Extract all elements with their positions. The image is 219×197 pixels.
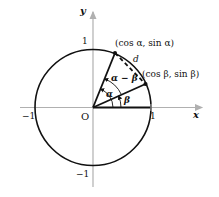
point-beta xyxy=(144,82,148,86)
origin-label: O xyxy=(81,112,89,122)
point-alpha-label: (cos α, sin α) xyxy=(115,39,174,48)
chord-d-label: d xyxy=(133,55,139,64)
tick-label-y-pos: 1 xyxy=(82,37,88,46)
point-beta-label: (cos β, sin β) xyxy=(142,70,199,79)
tick-label-x-neg: −1 xyxy=(22,112,35,121)
angle-beta-label: β xyxy=(124,96,130,105)
point-alpha xyxy=(113,51,117,55)
tick-label-x-pos: 1 xyxy=(150,112,156,121)
angle-alpha-label: α xyxy=(106,90,113,99)
x-axis-label: x xyxy=(193,110,199,120)
tick-label-y-neg: −1 xyxy=(76,170,89,179)
angle-arc-beta xyxy=(119,96,121,108)
angle-alpha-minus-beta-label: α − β xyxy=(111,74,138,83)
y-axis-label: y xyxy=(80,6,86,16)
